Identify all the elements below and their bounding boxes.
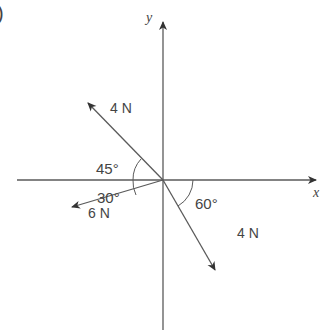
force-label-4n-lower: 4 N (237, 225, 259, 241)
angle-arc-45 (133, 159, 141, 180)
angle-label-45: 45° (96, 160, 119, 177)
x-axis-label: x (312, 185, 320, 200)
force-vector-4n-lower-right (163, 180, 215, 270)
force-label-6n: 6 N (88, 205, 110, 221)
part-label: ) (0, 2, 4, 24)
force-diagram: ) y x 4 N 45° 6 N 30° 4 N 60° (0, 0, 331, 330)
angle-arc-60 (178, 180, 193, 206)
angle-label-60: 60° (195, 195, 218, 212)
force-label-4n-upper: 4 N (110, 100, 132, 116)
y-axis-label: y (144, 10, 153, 25)
angle-label-30: 30° (97, 189, 120, 206)
